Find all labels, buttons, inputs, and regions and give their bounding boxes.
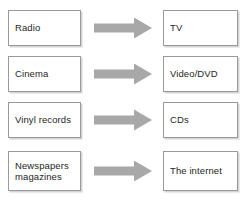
target-media-box: CDs bbox=[163, 102, 238, 138]
source-media-box: Radio bbox=[8, 10, 81, 46]
diagram-row: Vinyl records CDs bbox=[0, 102, 249, 138]
diagram-row: Newspapers magazines The internet bbox=[0, 150, 249, 192]
target-media-box: The internet bbox=[163, 151, 238, 191]
right-block-arrow-icon bbox=[94, 161, 152, 182]
right-block-arrow-icon bbox=[94, 18, 152, 39]
source-media-box: Cinema bbox=[8, 56, 81, 92]
diagram-row: Cinema Video/DVD bbox=[0, 56, 249, 92]
right-block-arrow-icon bbox=[94, 110, 152, 131]
media-replacement-diagram: Radio TV Cinema Video/DVD Vinyl records … bbox=[0, 0, 249, 206]
source-media-box: Vinyl records bbox=[8, 102, 81, 138]
right-block-arrow-icon bbox=[94, 64, 152, 85]
source-media-box: Newspapers magazines bbox=[8, 151, 81, 191]
diagram-row: Radio TV bbox=[0, 10, 249, 46]
target-media-box: TV bbox=[163, 10, 238, 46]
target-media-box: Video/DVD bbox=[163, 56, 238, 92]
